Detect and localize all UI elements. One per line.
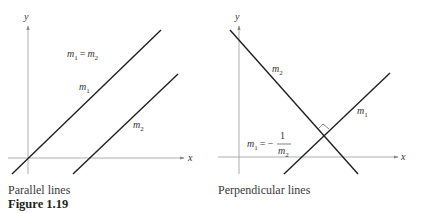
line-m1-label: m1 <box>357 105 368 119</box>
line-m1-label: m1 <box>79 81 90 95</box>
perpendicular-slope-relation: m1= − 1 m2 <box>247 130 291 159</box>
line-m2 <box>230 30 358 174</box>
line-m2-label: m2 <box>133 119 144 133</box>
y-axis-label: y <box>234 11 240 22</box>
parallel-slope-relation: m1=m2 <box>67 48 99 62</box>
figure-diagram: y x m1 m2 m1=m2 y x m2 m1 m1= − 1 m2 <box>0 0 426 213</box>
line-m1 <box>284 73 390 174</box>
figure-label: Figure 1.19 <box>8 197 68 212</box>
x-axis-label: x <box>187 152 193 163</box>
x-axis-label: x <box>400 151 406 162</box>
perpendicular-lines-panel: y x m2 m1 m1= − 1 m2 <box>218 11 406 174</box>
parallel-lines-panel: y x m1 m2 m1=m2 <box>8 11 193 174</box>
svg-text:m1= −: m1= − <box>247 138 274 152</box>
parallel-lines-caption: Parallel lines <box>8 183 70 198</box>
right-angle-marker <box>318 124 329 129</box>
line-m2-label: m2 <box>272 63 283 77</box>
svg-text:1: 1 <box>280 130 285 141</box>
perpendicular-lines-caption: Perpendicular lines <box>218 183 310 198</box>
y-axis-label: y <box>23 11 29 22</box>
